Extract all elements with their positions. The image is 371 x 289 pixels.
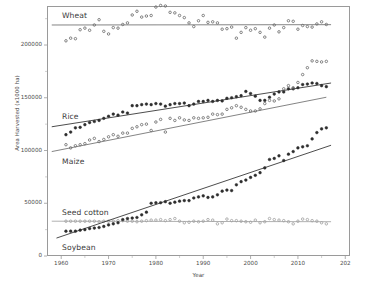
data-point: [221, 222, 224, 225]
data-point: [297, 28, 300, 31]
data-point: [159, 218, 162, 221]
data-point: [93, 120, 96, 123]
data-point: [65, 143, 68, 146]
data-point: [226, 218, 229, 221]
data-point: [121, 111, 124, 114]
data-point: [287, 87, 290, 90]
data-point: [84, 27, 87, 30]
data-point: [207, 99, 210, 102]
data-point: [136, 126, 139, 129]
data-point: [230, 107, 233, 110]
data-point: [131, 14, 134, 17]
data-point: [150, 202, 153, 205]
data-point: [306, 83, 309, 86]
data-point: [216, 113, 219, 116]
data-point: [273, 157, 276, 160]
data-point: [311, 26, 314, 29]
data-point: [259, 31, 262, 34]
data-point: [188, 221, 191, 224]
data-point: [164, 5, 167, 8]
data-point: [155, 102, 158, 105]
data-point: [254, 95, 257, 98]
data-point: [249, 92, 252, 95]
y-tick-label: 200000: [21, 41, 42, 47]
data-point: [268, 99, 271, 102]
data-point: [102, 225, 105, 228]
data-point: [159, 201, 162, 204]
data-point: [88, 29, 91, 32]
data-point: [301, 218, 304, 221]
data-point: [155, 121, 158, 124]
data-point: [197, 20, 200, 23]
data-point: [136, 104, 139, 107]
data-point: [79, 126, 82, 129]
data-point: [301, 145, 304, 148]
data-point: [174, 217, 177, 220]
data-point: [74, 37, 77, 40]
data-point: [145, 15, 148, 18]
data-point: [211, 113, 214, 116]
data-point: [140, 103, 143, 106]
data-point: [268, 217, 271, 220]
data-point: [216, 22, 219, 25]
data-point: [98, 226, 101, 229]
data-point: [122, 132, 125, 135]
data-point: [306, 25, 309, 28]
data-point: [65, 230, 68, 233]
data-point: [240, 180, 243, 183]
data-point: [164, 219, 167, 222]
data-point: [230, 219, 233, 222]
data-point: [254, 27, 257, 30]
data-point: [69, 131, 72, 134]
data-point: [320, 61, 323, 64]
data-point: [145, 219, 148, 222]
data-point: [126, 22, 129, 25]
data-point: [126, 132, 129, 135]
data-point: [306, 144, 309, 147]
data-point: [183, 119, 186, 122]
data-point: [169, 218, 172, 221]
data-point: [65, 133, 68, 136]
data-point: [93, 227, 96, 230]
data-point: [211, 100, 214, 103]
data-point: [292, 20, 295, 23]
data-point: [249, 221, 252, 224]
data-point: [174, 12, 177, 15]
x-tick-label: 202: [325, 260, 365, 266]
data-point: [249, 29, 252, 32]
data-point: [244, 90, 247, 93]
data-point: [169, 103, 172, 106]
data-point: [230, 189, 233, 192]
data-point: [74, 126, 77, 129]
data-point: [121, 218, 124, 221]
data-point: [197, 100, 200, 103]
data-point: [278, 31, 281, 34]
data-point: [320, 84, 323, 87]
data-point: [169, 11, 172, 14]
data-point: [107, 115, 110, 118]
x-axis-title: Year: [47, 272, 350, 278]
data-point: [278, 154, 281, 157]
data-point: [102, 117, 105, 120]
data-point: [216, 223, 219, 226]
data-point: [325, 60, 328, 63]
data-point: [249, 176, 252, 179]
data-point: [211, 21, 214, 24]
data-point: [188, 22, 191, 25]
data-point: [79, 229, 82, 232]
data-point: [159, 4, 162, 7]
series-wheat: [52, 4, 331, 42]
series-label-wheat: Wheat: [62, 11, 87, 20]
data-point: [173, 102, 176, 105]
data-point: [202, 14, 205, 17]
data-point: [164, 200, 167, 203]
data-point: [117, 114, 120, 117]
data-point: [216, 99, 219, 102]
data-point: [207, 21, 210, 24]
data-point: [188, 119, 191, 122]
data-point: [306, 218, 309, 221]
data-point: [103, 138, 106, 141]
data-point: [316, 23, 319, 26]
series-rice: [52, 82, 331, 136]
data-point: [183, 222, 186, 225]
